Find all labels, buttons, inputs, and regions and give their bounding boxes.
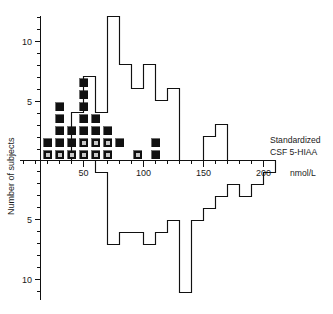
mirrored-histogram-plot: 10 5 5 10 Number of subjects xyxy=(0,0,333,314)
marker-filled-square xyxy=(116,139,124,147)
marker-filled-square xyxy=(56,103,64,111)
marker-open-square xyxy=(80,139,88,147)
histogram-figure: 10 5 5 10 Number of subjects xyxy=(0,0,333,314)
marker-open-square xyxy=(104,139,112,147)
x-tick-label-50: 50 xyxy=(78,168,88,178)
x-axis-ticks xyxy=(24,161,276,167)
marker-filled-square xyxy=(56,115,64,123)
marker-filled-square xyxy=(44,139,52,147)
y-tick-label-lower-5: 5 xyxy=(27,215,32,225)
marker-open-square xyxy=(92,139,100,147)
marker-filled-square xyxy=(80,127,88,135)
marker-open-square xyxy=(134,151,142,159)
lower-histogram-outline xyxy=(96,161,276,293)
marker-filled-square xyxy=(56,127,64,135)
y-axis-title: Number of subjects xyxy=(6,137,16,215)
y-tick-label-lower-10: 10 xyxy=(22,275,32,285)
marker-filled-square xyxy=(68,127,76,135)
y-axis-ticks xyxy=(35,18,41,292)
marker-filled-square xyxy=(80,115,88,123)
marker-filled-square xyxy=(56,139,64,147)
marker-open-square xyxy=(104,151,112,159)
marker-filled-square xyxy=(80,79,88,87)
x-axis-units-label: nmol/L xyxy=(290,168,316,178)
x-axis-caption-line2: CSF 5-HIAA xyxy=(270,147,318,157)
y-tick-label-upper-10: 10 xyxy=(22,37,32,47)
marker-open-square xyxy=(80,151,88,159)
x-tick-label-100: 100 xyxy=(136,168,151,178)
marker-filled-square xyxy=(80,103,88,111)
x-axis-caption-line1: Standardized xyxy=(270,135,321,145)
marker-filled-square xyxy=(104,127,112,135)
subject-markers-group xyxy=(44,79,160,159)
marker-filled-square xyxy=(92,127,100,135)
marker-open-square xyxy=(56,151,64,159)
marker-open-square xyxy=(44,151,52,159)
x-tick-label-150: 150 xyxy=(196,168,211,178)
marker-filled-square xyxy=(80,91,88,99)
y-tick-label-upper-5: 5 xyxy=(27,97,32,107)
marker-filled-square xyxy=(152,139,160,147)
marker-filled-square xyxy=(92,115,100,123)
marker-open-square xyxy=(92,151,100,159)
marker-filled-square xyxy=(152,151,160,159)
marker-open-square xyxy=(68,151,76,159)
marker-filled-square xyxy=(68,139,76,147)
